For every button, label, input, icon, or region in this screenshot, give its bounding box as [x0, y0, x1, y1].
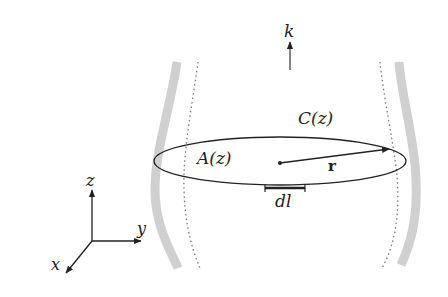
left-tube-wall [155, 62, 178, 268]
right-dotted-boundary [380, 62, 398, 268]
contour-label: C(z) [298, 108, 333, 128]
x-axis [66, 241, 92, 273]
y-axis-label: y [136, 219, 147, 238]
radius-label: r [328, 157, 337, 175]
tube-diagram: k C(z) A(z) r dl z y x [0, 0, 448, 297]
z-axis-label: z [85, 171, 95, 190]
area-label: A(z) [195, 148, 232, 168]
k-label: k [284, 21, 294, 41]
line-element-label: dl [275, 191, 291, 211]
x-axis-label: x [51, 255, 60, 274]
coordinate-axes: z y x [51, 171, 147, 274]
right-tube-wall [399, 62, 416, 265]
